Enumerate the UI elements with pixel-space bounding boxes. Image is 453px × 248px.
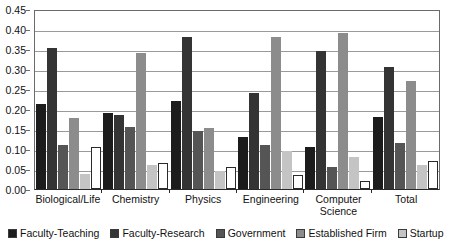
bar: [125, 127, 135, 189]
y-axis-tick-mark: [26, 170, 30, 171]
bar-group: [102, 11, 169, 189]
bar: [238, 137, 248, 189]
bar: [305, 147, 315, 189]
y-axis-tick-label: 0.05: [6, 165, 26, 175]
bar: [417, 165, 427, 189]
legend-label: Established Firm: [308, 228, 386, 239]
bar: [158, 163, 168, 189]
y-axis-tick-mark: [26, 30, 30, 31]
legend-swatch-icon: [398, 229, 407, 238]
bar: [428, 161, 438, 189]
bar: [69, 118, 79, 189]
bar: [204, 128, 214, 189]
bar: [58, 145, 68, 189]
bar: [282, 151, 292, 189]
bar: [136, 53, 146, 189]
bar: [406, 81, 416, 189]
x-axis-tick-label: Physics: [169, 193, 237, 217]
y-axis: 0.000.050.100.150.200.250.300.350.400.45: [0, 0, 30, 196]
bar: [193, 131, 203, 189]
legend-label: Faculty-Research: [122, 228, 204, 239]
bar: [114, 115, 124, 189]
legend-label: Faculty-Teaching: [20, 228, 99, 239]
plot-area: [34, 10, 440, 190]
y-axis-tick-label: 0.40: [6, 25, 26, 35]
x-axis-tick-label: Biological/Life: [34, 193, 102, 217]
bar: [349, 157, 359, 189]
y-axis-tick-mark: [26, 70, 30, 71]
bar: [271, 37, 281, 189]
bar: [47, 48, 57, 189]
bar-group: [372, 11, 439, 189]
y-axis-tick-mark: [26, 150, 30, 151]
bar: [293, 175, 303, 189]
bar: [360, 181, 370, 189]
bar: [226, 167, 236, 189]
bar: [316, 51, 326, 189]
y-axis-tick-label: 0.30: [6, 65, 26, 75]
y-axis-tick-mark: [26, 190, 30, 191]
y-axis-tick-mark: [26, 10, 30, 11]
y-axis-tick-label: 0.45: [6, 5, 26, 15]
legend-swatch-icon: [8, 229, 17, 238]
bar-group: [35, 11, 102, 189]
legend-swatch-icon: [296, 229, 305, 238]
legend-swatch-icon: [216, 229, 225, 238]
chart-legend: Faculty-TeachingFaculty-ResearchGovernme…: [8, 228, 448, 239]
y-axis-tick-label: 0.10: [6, 145, 26, 155]
bar: [384, 67, 394, 189]
bar: [91, 147, 101, 189]
x-axis-tick-label: Computer Science: [305, 193, 373, 217]
y-axis-tick-label: 0.20: [6, 105, 26, 115]
y-axis-tick-mark: [26, 50, 30, 51]
bar-group: [237, 11, 304, 189]
bar: [249, 93, 259, 189]
legend-item[interactable]: Government: [216, 228, 286, 239]
bar: [373, 117, 383, 189]
legend-swatch-icon: [110, 229, 119, 238]
bar-group: [170, 11, 237, 189]
y-axis-tick-label: 0.15: [6, 125, 26, 135]
legend-item[interactable]: Established Firm: [296, 228, 386, 239]
legend-item[interactable]: Faculty-Research: [110, 228, 204, 239]
x-axis-tick-label: Total: [372, 193, 440, 217]
bar: [80, 174, 90, 189]
bar: [171, 101, 181, 189]
bar: [327, 167, 337, 189]
x-axis-tick-label: Engineering: [237, 193, 305, 217]
legend-item[interactable]: Startup: [398, 228, 444, 239]
y-axis-tick-mark: [26, 110, 30, 111]
bar: [215, 171, 225, 189]
bar: [260, 145, 270, 189]
bar: [36, 104, 46, 189]
grouped-bar-chart: 0.000.050.100.150.200.250.300.350.400.45…: [0, 0, 453, 248]
legend-label: Startup: [410, 228, 444, 239]
y-axis-tick-label: 0.35: [6, 45, 26, 55]
legend-item[interactable]: Faculty-Teaching: [8, 228, 99, 239]
bar: [147, 165, 157, 189]
bar-groups: [35, 11, 439, 189]
bar: [182, 37, 192, 189]
y-axis-tick-label: 0.00: [6, 185, 26, 195]
bar: [395, 143, 405, 189]
y-axis-tick-mark: [26, 130, 30, 131]
y-axis-tick-mark: [26, 90, 30, 91]
x-axis: Biological/LifeChemistryPhysicsEngineeri…: [34, 193, 440, 217]
bar-group: [304, 11, 371, 189]
y-axis-tick-label: 0.25: [6, 85, 26, 95]
bar: [338, 33, 348, 189]
x-axis-tick-label: Chemistry: [102, 193, 170, 217]
legend-label: Government: [228, 228, 286, 239]
bar: [103, 113, 113, 189]
